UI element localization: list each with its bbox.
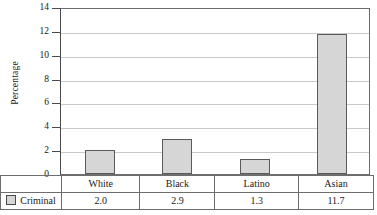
bar-chart-figure: Percentage 02468101214 White Black Latin…	[0, 0, 377, 215]
bar-latino	[240, 159, 270, 175]
y-axis-tick	[52, 80, 60, 81]
data-table: White Black Latino Asian Criminal 2.0 2.…	[0, 175, 374, 210]
legend-swatch-icon	[6, 195, 16, 205]
table-cell-value: 1.3	[215, 193, 299, 210]
legend-label: Criminal	[20, 193, 56, 209]
y-axis-tick	[52, 32, 60, 33]
table-corner-blank	[1, 176, 62, 193]
legend-entry-criminal: Criminal	[1, 193, 62, 210]
y-axis-tick	[52, 8, 60, 9]
y-axis-tick-label: 2	[9, 146, 49, 156]
y-axis-tick-label: 6	[9, 98, 49, 108]
table-cell-value: 2.9	[140, 193, 215, 210]
y-axis-tick	[52, 127, 60, 128]
table-cell-category: White	[62, 176, 140, 193]
y-axis-tick	[52, 56, 60, 57]
y-axis-tick	[52, 151, 60, 152]
y-axis-tick	[52, 103, 60, 104]
bar-black	[162, 139, 192, 174]
bar-asian	[317, 34, 347, 174]
table-cell-value: 11.7	[298, 193, 373, 210]
y-axis-tick-label: 8	[9, 75, 49, 85]
y-axis-tick-label: 10	[9, 51, 49, 61]
plot-area	[60, 8, 370, 175]
table-cell-category: Black	[140, 176, 215, 193]
y-axis-tick-label: 14	[9, 3, 49, 13]
bar-white	[85, 150, 115, 174]
y-axis-tick-label: 4	[9, 122, 49, 132]
table-cell-category: Asian	[298, 176, 373, 193]
table-row-values: Criminal 2.0 2.9 1.3 11.7	[1, 193, 374, 210]
y-axis-tick-label: 12	[9, 27, 49, 37]
table-cell-value: 2.0	[62, 193, 140, 210]
table-cell-category: Latino	[215, 176, 299, 193]
table-row-categories: White Black Latino Asian	[1, 176, 374, 193]
